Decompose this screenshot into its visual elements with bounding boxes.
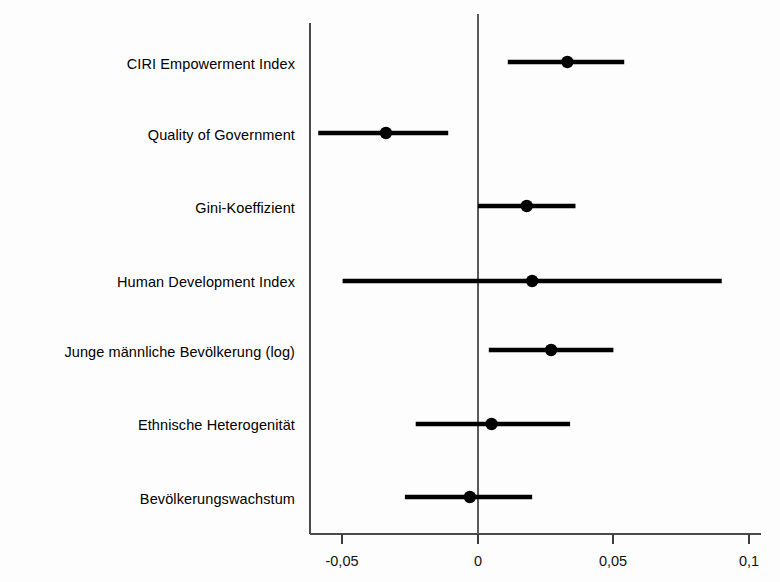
coefficient-row-gini-koeffizient	[478, 200, 575, 212]
point-estimate-ciri-empowerment-index	[561, 56, 573, 68]
coefficient-row-ciri-empowerment-index	[508, 56, 624, 68]
category-label-junge-maennliche-bevoelkerung: Junge männliche Bevölkerung (log)	[64, 344, 295, 360]
data-marks-group	[318, 56, 721, 503]
coefficient-plot-canvas: -0,05 0 0,05 0,1 CIRI Empowerment Index …	[0, 0, 780, 582]
x-tick-label-zero: 0	[474, 553, 482, 569]
x-tick-label-005: 0,05	[599, 553, 627, 569]
coefficient-row-ethnische-heterogenitaet	[416, 418, 570, 430]
category-label-ethnische-heterogenitaet: Ethnische Heterogenität	[138, 417, 295, 433]
point-estimate-quality-of-government	[380, 127, 392, 139]
x-axis-tick-labels: -0,05 0 0,05 0,1	[325, 553, 759, 569]
point-estimate-gini-koeffizient	[521, 200, 533, 212]
point-estimate-bevoelkerungswachstum	[464, 491, 476, 503]
category-label-gini-koeffizient: Gini-Koeffizient	[195, 200, 295, 216]
category-label-bevoelkerungswachstum: Bevölkerungswachstum	[140, 491, 295, 507]
category-label-ciri-empowerment-index: CIRI Empowerment Index	[127, 56, 296, 72]
coefficient-row-human-development-index	[343, 275, 722, 287]
category-label-human-development-index: Human Development Index	[117, 274, 296, 290]
coefficient-row-junge-maennliche-bevoelkerung-log	[489, 344, 614, 356]
category-label-quality-of-government: Quality of Government	[148, 127, 295, 143]
x-tick-label-neg005: -0,05	[325, 553, 358, 569]
coefficient-row-bevoelkerungswachstum	[405, 491, 532, 503]
coefficient-plot: -0,05 0 0,05 0,1 CIRI Empowerment Index …	[0, 0, 780, 582]
coefficient-row-quality-of-government	[318, 127, 448, 139]
category-labels: CIRI Empowerment Index Quality of Govern…	[64, 56, 295, 507]
point-estimate-ethnische-heterogenitaet	[485, 418, 497, 430]
point-estimate-human-development-index	[526, 275, 538, 287]
point-estimate-junge-maennliche-bevoelkerung-log	[545, 344, 557, 356]
x-tick-label-01: 0,1	[739, 553, 759, 569]
x-axis-ticks	[342, 534, 749, 544]
